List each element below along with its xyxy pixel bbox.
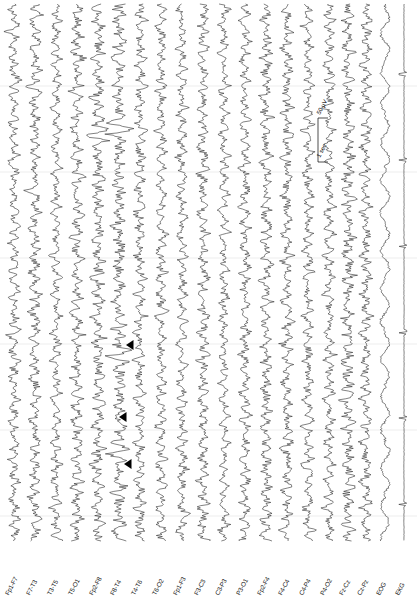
eeg-trace-fp2-f4	[258, 4, 275, 541]
eeg-trace-ekg	[399, 4, 407, 540]
channel-label-p4-o2: P4-O2	[319, 578, 333, 596]
eeg-trace-f4-c4	[278, 4, 295, 541]
eeg-plot-area: 50 µV1 sec	[0, 0, 417, 545]
annotation-marker-group	[119, 340, 134, 469]
arrow-marker-2	[119, 412, 127, 422]
eeg-trace-f3-c3	[195, 4, 211, 541]
eeg-trace-eog	[380, 4, 391, 541]
channel-label-cz-pz: Cz-Pz	[356, 579, 369, 596]
eeg-trace-c4-p4	[300, 4, 317, 541]
eeg-trace-fp2-f8	[87, 4, 110, 541]
channel-label-t6-o2: T6-O2	[151, 578, 165, 596]
eeg-trace-t4-t6	[132, 4, 149, 541]
eeg-trace-cz-pz	[358, 4, 374, 541]
eeg-trace-c3-p3	[217, 4, 231, 541]
channel-label-f8-t4: F8-T4	[109, 579, 122, 596]
eeg-trace-p3-o1	[237, 4, 252, 541]
calibration-bracket-group: 50 µV1 sec	[316, 99, 329, 162]
channel-label-fp2-f8: Fp2-F8	[88, 576, 103, 596]
channel-label-strip: Fp1-F7F7-T3T3-T5T5-O1Fp2-F8F8-T4T4-T6T6-…	[0, 545, 417, 598]
channel-label-fp2-f4: Fp2-F4	[256, 576, 271, 596]
calibration-time-label: 1 sec	[316, 143, 328, 158]
channel-label-f4-c4: F4-C4	[277, 578, 291, 596]
eeg-trace-t6-o2	[154, 4, 170, 541]
channel-label-t4-t6: T4-T6	[130, 579, 143, 596]
eeg-trace-t5-o1	[68, 4, 87, 541]
channel-label-eog: EOG	[375, 581, 387, 596]
eeg-trace-group	[4, 4, 407, 541]
eeg-trace-t3-t5	[48, 4, 63, 541]
channel-label-t3-t5: T3-T5	[46, 579, 59, 596]
channel-label-c3-p3: C3-P3	[214, 578, 228, 596]
eeg-trace-fp1-f3	[175, 4, 191, 541]
channel-label-t5-o1: T5-O1	[67, 578, 81, 596]
channel-label-ekg: EKG	[394, 582, 406, 596]
eeg-trace-p4-o2	[321, 4, 338, 541]
eeg-trace-f7-t3	[24, 4, 44, 541]
eeg-recording-page: 50 µV1 sec Fp1-F7F7-T3T3-T5T5-O1Fp2-F8F8…	[0, 0, 417, 598]
calibration-amplitude-label: 50 µV	[316, 99, 329, 116]
channel-label-c4-p4: C4-P4	[298, 578, 312, 596]
channel-label-fp1-f7: Fp1-F7	[4, 576, 19, 596]
time-gridlines	[0, 86, 417, 516]
channel-label-f3-c3: F3-C3	[193, 578, 207, 596]
channel-label-f7-t3: F7-T3	[25, 579, 38, 596]
channel-label-p3-o1: P3-O1	[235, 578, 249, 596]
arrow-marker-3	[124, 459, 132, 469]
channel-label-fp1-f3: Fp1-F3	[172, 576, 187, 596]
eeg-traces-svg: 50 µV1 sec	[0, 0, 417, 545]
eeg-trace-fz-cz	[338, 4, 357, 541]
channel-label-fz-cz: Fz-Cz	[338, 579, 351, 596]
eeg-trace-fp1-f7	[4, 4, 22, 541]
